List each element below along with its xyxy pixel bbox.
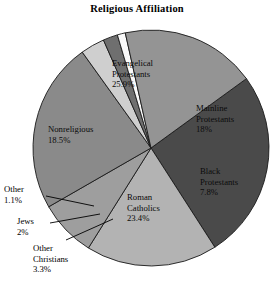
- slice-label-line1: Jews: [17, 216, 34, 227]
- pie-chart-figure: Religious Affiliation Evangelical Protes…: [0, 0, 274, 288]
- slice-label-line1: Evangelical: [112, 58, 153, 69]
- slice-value: 25.9%: [112, 79, 153, 90]
- slice-label-black-protestants: Black Protestants 7.8%: [200, 166, 238, 198]
- slice-label-jews: Jews 2%: [17, 216, 34, 237]
- slice-label-line1: Nonreligious: [48, 124, 93, 135]
- slice-value: 3.3%: [33, 264, 68, 275]
- slice-label-line2: Catholics: [127, 203, 160, 214]
- slice-label-mainline-protestants: Mainline Protestants 18%: [196, 103, 234, 135]
- slice-value: 2%: [17, 227, 34, 238]
- slice-label-line1: Black: [200, 166, 238, 177]
- slice-label-line2: Protestants: [196, 114, 234, 125]
- slice-value: 23.4%: [127, 213, 160, 224]
- slice-label-other: Other 1.1%: [4, 184, 24, 205]
- slice-label-line1: Roman: [127, 192, 160, 203]
- slice-value: 18%: [196, 124, 234, 135]
- slice-label-nonreligious: Nonreligious 18.5%: [48, 124, 93, 145]
- slice-label-line1: Other: [33, 243, 68, 254]
- slice-label-other-christians: Other Christians 3.3%: [33, 243, 68, 275]
- slice-value: 7.8%: [200, 187, 238, 198]
- slice-label-line1: Mainline: [196, 103, 234, 114]
- slice-label-line2: Protestants: [200, 177, 238, 188]
- slice-label-roman-catholics: Roman Catholics 23.4%: [127, 192, 160, 224]
- slice-label-evangelical-protestants: Evangelical Protestants 25.9%: [112, 58, 153, 90]
- slice-value: 18.5%: [48, 135, 93, 146]
- slice-label-line1: Other: [4, 184, 24, 195]
- slice-label-line2: Protestants: [112, 69, 153, 80]
- slice-label-line2: Christians: [33, 254, 68, 265]
- slice-value: 1.1%: [4, 195, 24, 206]
